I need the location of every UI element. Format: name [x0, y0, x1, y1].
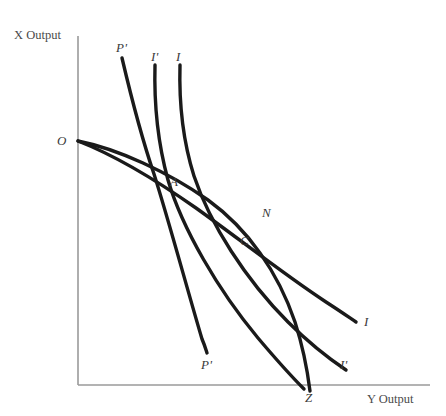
label-i-prime-bottom: I': [340, 358, 348, 371]
curve-I-prime: [155, 65, 304, 389]
label-point-n: N: [262, 206, 271, 219]
curve-I-lower: [78, 141, 356, 322]
label-p-prime-top: P': [116, 41, 127, 54]
label-p-prime-bottom: P': [201, 358, 212, 371]
label-point-a: A: [170, 175, 178, 188]
x-axis-label: Y Output: [367, 393, 413, 406]
label-i-top: I: [176, 50, 181, 63]
diagram-svg: [0, 0, 446, 416]
label-i-right: I: [364, 315, 369, 328]
label-i-prime-top: I': [151, 50, 159, 63]
origin-label: O: [57, 134, 67, 147]
figure-canvas: X Output Y Output O P' I' I P' I' I A C …: [0, 0, 446, 416]
y-axis-label: X Output: [14, 29, 61, 42]
label-point-c: C: [240, 234, 249, 247]
label-point-z: Z: [305, 391, 312, 404]
